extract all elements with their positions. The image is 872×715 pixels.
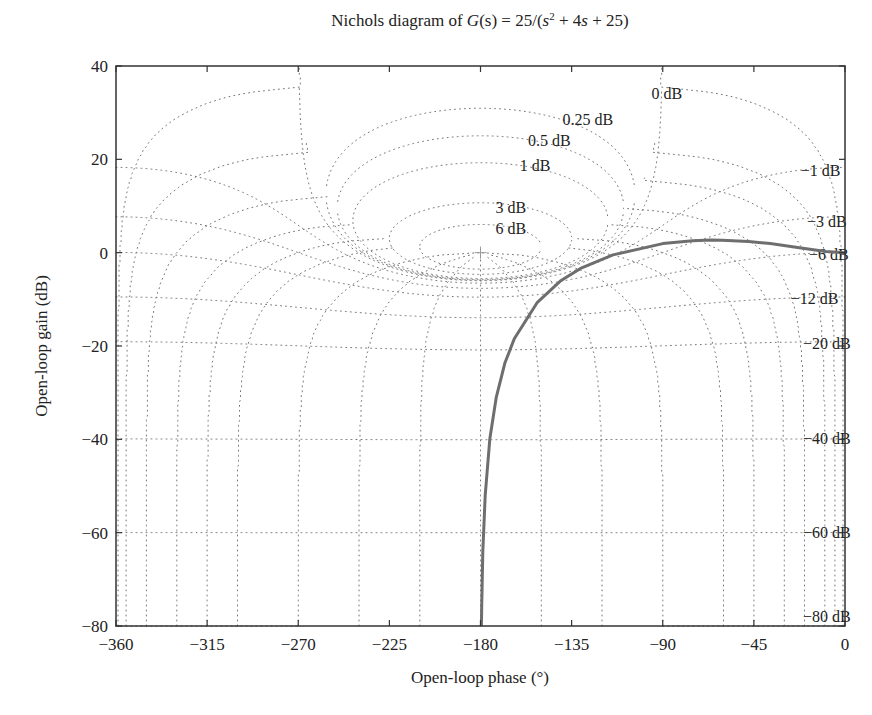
contour-label: 3 dB: [496, 199, 527, 216]
x-tick-label: −315: [190, 635, 225, 654]
contour-label: 0.5 dB: [528, 132, 571, 149]
x-tick-label: 0: [841, 635, 850, 654]
y-tick-label: −40: [81, 430, 108, 449]
contour-label: −20 dB: [803, 335, 851, 352]
closed-loop-magnitude-contour: [353, 163, 608, 219]
closed-loop-magnitude-contour: [338, 136, 624, 202]
y-tick-label: 40: [91, 57, 108, 76]
contour-label: 0 dB: [651, 85, 682, 102]
y-tick-label: 20: [91, 150, 108, 169]
nichols-chart: Nichols diagram of G(s) = 25/(s2 + 4s + …: [0, 0, 872, 715]
closed-loop-phase-contour: [610, 225, 784, 626]
closed-loop-magnitude-contour: [389, 203, 571, 237]
contour-label: −3 dB: [807, 213, 847, 230]
chart-title: Nichols diagram of G(s) = 25/(s2 + 4s + …: [331, 10, 628, 30]
axis-ticks: −360−315−270−225−180−135−90−45040200−20−…: [81, 57, 849, 654]
closed-loop-phase-contour: [126, 143, 308, 626]
closed-loop-phase-contour: [491, 255, 602, 626]
closed-loop-magnitude-contour: [327, 203, 635, 280]
contour-label: 0.25 dB: [562, 111, 613, 128]
x-tick-label: −135: [554, 635, 589, 654]
x-tick-label: −45: [741, 635, 768, 654]
closed-loop-phase-contour: [644, 178, 825, 626]
closed-loop-phase-contour: [488, 257, 542, 626]
closed-loop-phase-contour: [238, 248, 393, 626]
y-tick-label: 0: [100, 244, 109, 263]
nichols-grid: [116, 66, 845, 626]
y-tick-label: −80: [81, 617, 108, 636]
x-tick-label: −360: [98, 635, 133, 654]
closed-loop-phase-contour: [578, 239, 754, 626]
closed-loop-phase-contour: [118, 66, 300, 626]
closed-loop-phase-contour: [207, 239, 383, 626]
contour-label: −1 dB: [801, 162, 841, 179]
closed-loop-phase-contour: [623, 208, 804, 626]
x-tick-label: −90: [649, 635, 676, 654]
x-tick-label: −270: [281, 635, 316, 654]
x-tick-label: −225: [372, 635, 407, 654]
contour-label: 1 dB: [520, 157, 551, 174]
contour-label: −12 dB: [791, 290, 839, 307]
x-axis-label: Open-loop phase (°): [411, 668, 549, 687]
y-tick-label: −20: [81, 337, 108, 356]
y-tick-label: −60: [81, 524, 108, 543]
contour-labels: 0 dB0.25 dB0.5 dB1 dB3 dB6 dB−1 dB−3 dB−…: [496, 85, 851, 625]
y-axis-label: Open-loop gain (dB): [32, 275, 51, 417]
contour-label: −80 dB: [803, 608, 851, 625]
closed-loop-phase-contour: [177, 225, 351, 626]
closed-loop-phase-contour: [569, 248, 724, 626]
closed-loop-phase-contour: [359, 255, 470, 626]
critical-point-marker: [475, 247, 487, 259]
x-tick-label: −180: [463, 635, 498, 654]
closed-loop-phase-contour: [420, 257, 474, 626]
contour-label: 6 dB: [496, 220, 527, 237]
